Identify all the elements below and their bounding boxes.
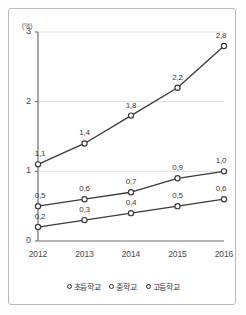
- x-axis-tick-label: 2012: [21, 249, 55, 259]
- data-label: 1,1: [27, 149, 53, 158]
- data-point-marker: [221, 169, 226, 174]
- x-axis-tick-label: 2016: [207, 249, 241, 259]
- data-point-marker: [35, 224, 40, 229]
- data-point-marker: [35, 204, 40, 209]
- x-axis-tick-label: 2015: [161, 249, 195, 259]
- chart-figure: (%) 0123 20122013201420152016 0,20,30,40…: [0, 0, 246, 315]
- y-axis-tick-label: 3: [17, 26, 31, 36]
- data-label: 0,7: [118, 177, 144, 186]
- data-point-marker: [221, 197, 226, 202]
- data-label: 0,6: [208, 184, 234, 193]
- data-label: 0,3: [72, 205, 98, 214]
- data-point-marker: [128, 113, 133, 118]
- data-label: 2,8: [208, 31, 234, 40]
- axes: [35, 32, 224, 241]
- x-axis-tick-label: 2013: [68, 249, 102, 259]
- line-chart: (%) 0123 20122013201420152016 0,20,30,40…: [0, 0, 246, 315]
- legend-item-0[interactable]: 초등학교: [67, 281, 101, 292]
- legend-marker-circle-icon: [146, 284, 151, 289]
- data-label: 1,8: [118, 101, 144, 110]
- data-label: 1,0: [208, 156, 234, 165]
- data-point-marker: [128, 211, 133, 216]
- data-label: 0,2: [27, 212, 53, 221]
- legend-label: 초등학교: [74, 281, 101, 292]
- legend-marker-circle-icon: [109, 284, 114, 289]
- y-axis-tick-label: 2: [17, 96, 31, 106]
- data-point-marker: [82, 218, 87, 223]
- x-axis-tick-label: 2014: [114, 249, 148, 259]
- y-axis-tick-label: 0: [17, 235, 31, 245]
- data-point-marker: [128, 190, 133, 195]
- legend-label: 고등학교: [153, 281, 180, 292]
- data-label: 0,5: [165, 191, 191, 200]
- data-point-marker: [82, 197, 87, 202]
- legend-item-2[interactable]: 고등학교: [146, 281, 180, 292]
- data-label: 2,2: [165, 73, 191, 82]
- legend-item-1[interactable]: 중학교: [109, 281, 136, 292]
- data-label: 0,4: [118, 198, 144, 207]
- data-point-marker: [82, 141, 87, 146]
- y-axis-tick-label: 1: [17, 165, 31, 175]
- data-label: 1,4: [72, 128, 98, 137]
- data-point-marker: [175, 85, 180, 90]
- data-point-marker: [175, 176, 180, 181]
- legend-marker-circle-icon: [67, 284, 72, 289]
- data-label: 0,9: [165, 163, 191, 172]
- data-point-marker: [175, 204, 180, 209]
- legend-label: 중학교: [116, 281, 136, 292]
- chart-legend: 초등학교중학교고등학교: [0, 281, 246, 292]
- data-point-marker: [35, 162, 40, 167]
- data-label: 0,6: [72, 184, 98, 193]
- data-label: 0,5: [27, 191, 53, 200]
- data-point-marker: [221, 43, 226, 48]
